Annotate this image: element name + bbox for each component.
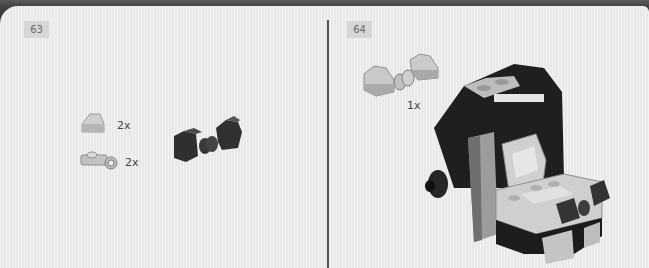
vehicle-cab-model-icon: [424, 58, 624, 268]
step-number-badge: 63: [24, 21, 49, 38]
dark-clip-assembly-icon: [172, 114, 247, 169]
step-number-badge: 64: [347, 21, 372, 38]
quantity-label: 2x: [125, 156, 139, 169]
clip-plate-part-icon: [80, 148, 120, 172]
instruction-sheet: 63 2x 2x: [0, 6, 649, 268]
instruction-page: 63 2x 2x: [0, 0, 649, 268]
slope-part-icon: [80, 112, 110, 134]
quantity-label: 1x: [407, 99, 421, 112]
step-divider: [327, 20, 329, 268]
quantity-label: 2x: [117, 119, 131, 132]
